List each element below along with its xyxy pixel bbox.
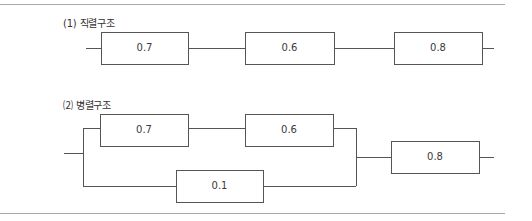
series-block-2-value: 0.6 — [245, 43, 334, 53]
series-block-1-value: 0.7 — [101, 43, 188, 53]
parallel-block-upper-1-value: 0.7 — [100, 125, 188, 135]
parallel-block-lower-value: 0.1 — [176, 181, 263, 191]
reliability-block-diagram — [0, 0, 532, 221]
series-block-3-value: 0.8 — [394, 43, 482, 53]
parallel-block-upper-2-value: 0.6 — [245, 125, 333, 135]
parallel-block-series-value: 0.8 — [391, 152, 479, 162]
